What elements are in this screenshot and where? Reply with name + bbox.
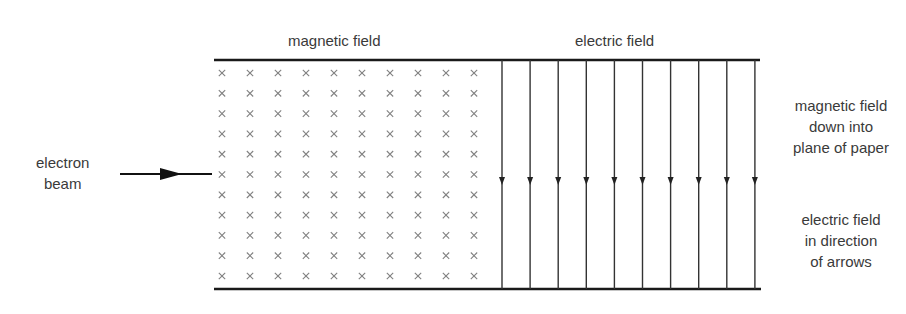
- arrow-down-icon: [640, 177, 646, 185]
- arrowhead-icon: [160, 168, 182, 180]
- electron-beam-arrow: [120, 168, 212, 180]
- plate-lines: [214, 60, 761, 289]
- field-diagram: [0, 0, 906, 314]
- arrow-down-icon: [668, 177, 674, 185]
- arrow-down-icon: [611, 177, 617, 185]
- magnetic-cross-grid: [219, 70, 477, 279]
- arrow-down-icon: [499, 177, 505, 185]
- arrow-down-icon: [555, 177, 561, 185]
- arrow-down-icon: [752, 177, 758, 185]
- arrow-down-icon: [696, 177, 702, 185]
- electric-field-lines: [499, 60, 758, 289]
- arrow-down-icon: [724, 177, 730, 185]
- arrow-down-icon: [583, 177, 589, 185]
- arrow-down-icon: [527, 177, 533, 185]
